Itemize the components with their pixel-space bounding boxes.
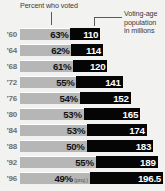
row-percent-label: 53% [67,125,85,136]
table-row: '8053%165 [0,108,165,121]
row-percent-label: 54% [59,93,77,104]
table-row: '6462%114 [0,44,165,57]
row-percent-label: 49% (proj.) [54,173,88,184]
row-percent-label: 61% [53,61,71,72]
row-percent-label: 55% [56,77,74,88]
row-population-label: 165 [123,109,138,120]
row-population-label: 110 [83,29,98,40]
row-year-label: '88 [0,142,17,151]
chart-legend-percent-label: Percent who voted [20,1,78,10]
row-population-label: 152 [113,93,128,104]
row-population-label: 120 [90,61,105,72]
row-population-label: 114 [86,45,101,56]
table-row: '9649% (proj.)196.5 [0,172,165,185]
table-row: '6861%120 [0,60,165,73]
row-year-label: '72 [0,78,17,87]
row-population-label: 189 [140,157,155,168]
row-bar: 50%183 [20,140,153,152]
row-bar: 53%165 [20,108,140,120]
row-year-label: '96 [0,174,17,183]
row-bar: 61%120 [20,60,107,72]
row-percent-label: 53% [63,109,81,120]
leader-line-population-horizontal [94,17,122,18]
row-year-label: '80 [0,110,17,119]
row-bar: 49% (proj.)196.5 [20,172,163,184]
row-percent-label: 50% [66,141,84,152]
row-year-label: '64 [0,46,17,55]
table-row: '8850%183 [0,140,165,153]
table-row: '7654%152 [0,92,165,105]
row-year-label: '76 [0,94,17,103]
table-row: '7255%141 [0,76,165,89]
row-population-label: 174 [129,125,144,136]
row-population-label: 196.5 [138,173,161,184]
row-percent-label: 62% [51,45,69,56]
row-bar: 55%189 [20,156,158,168]
leader-line-population-vertical [94,17,95,26]
row-year-label: '68 [0,62,17,71]
table-row: '8453%174 [0,124,165,137]
row-bar: 53%174 [20,124,147,136]
row-projection-note: (proj.) [73,177,88,183]
row-bar: 55%141 [20,76,123,88]
voter-turnout-chart: Percent who voted Voting-age population … [0,0,165,191]
table-row: '6063%110 [0,28,165,41]
row-percent-label: 55% [75,157,93,168]
row-population-label: 183 [136,141,151,152]
row-population-label: 141 [105,77,120,88]
row-bar: 54%152 [20,92,131,104]
table-row: '9255%189 [0,156,165,169]
row-year-label: '84 [0,126,17,135]
leader-line-percent [51,12,52,25]
row-bar: 62%114 [20,44,103,56]
row-year-label: '92 [0,158,17,167]
row-year-label: '60 [0,30,17,39]
row-percent-label: 63% [50,29,68,40]
row-bar: 63%110 [20,28,100,40]
